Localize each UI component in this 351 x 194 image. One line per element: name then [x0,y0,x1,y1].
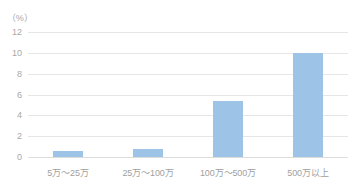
x-axis-category-label: 100万～500万 [188,166,268,179]
bars-group [28,32,348,157]
bar-chart: （%） 121086420 5万～25万25万～100万100万～500万500… [0,0,351,194]
bar [293,53,323,157]
y-axis-tick-label: 4 [17,110,22,120]
x-axis-labels: 5万～25万25万～100万100万～500万500万以上 [28,166,348,182]
bar-slot [188,32,268,157]
gridline: 0 [28,157,348,158]
x-axis-category-label: 5万～25万 [28,166,108,179]
bar-slot [108,32,188,157]
y-axis-tick-label: 2 [17,131,22,141]
bar [133,149,163,157]
y-axis-unit-label: （%） [7,11,32,24]
plot-area: 121086420 [28,32,348,157]
y-axis-tick-label: 12 [12,27,22,37]
bar-slot [268,32,348,157]
bar-slot [28,32,108,157]
y-axis-tick-label: 0 [17,152,22,162]
bar [213,101,243,157]
bar [53,151,83,157]
y-axis-tick-label: 10 [12,48,22,58]
x-axis-category-label: 500万以上 [268,166,348,179]
x-axis-category-label: 25万～100万 [108,166,188,179]
y-axis-tick-label: 8 [17,69,22,79]
y-axis-tick-label: 6 [17,90,22,100]
